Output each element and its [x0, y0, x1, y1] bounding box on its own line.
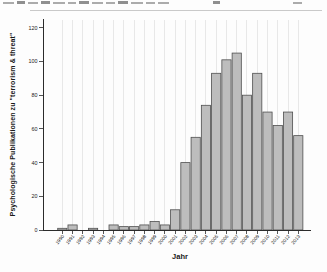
bar-2009 [253, 73, 262, 230]
bar-chart-svg: 0204060801001201990199119921993199419951… [0, 0, 327, 272]
x-tick-label-2006: 2006 [219, 234, 230, 246]
x-tick-label-1992: 1992 [75, 234, 86, 246]
x-tick-label-2013: 2013 [291, 234, 302, 246]
x-tick-label-1993: 1993 [85, 234, 96, 246]
x-tick-label-2005: 2005 [208, 234, 219, 246]
x-tick-label-1994: 1994 [96, 234, 107, 246]
x-tick-label-2007: 2007 [229, 234, 240, 246]
x-tick-label-2010: 2010 [260, 234, 271, 246]
x-tick-label-2009: 2009 [250, 234, 261, 246]
x-tick-label-2002: 2002 [178, 234, 189, 246]
x-tick-label-2003: 2003 [188, 234, 199, 246]
x-tick-label-1997: 1997 [126, 234, 137, 246]
bar-2008 [242, 95, 251, 230]
bar-2007 [232, 53, 241, 230]
x-tick-label-2001: 2001 [167, 234, 178, 246]
bar-2006 [222, 60, 231, 230]
bar-2005 [212, 73, 221, 230]
bar-2002 [181, 163, 190, 230]
x-tick-label-2008: 2008 [239, 234, 250, 246]
x-tick-label-2012: 2012 [280, 234, 291, 246]
x-tick-label-1999: 1999 [147, 234, 158, 246]
bar-2003 [191, 137, 200, 230]
bar-1999 [150, 222, 159, 230]
bar-2012 [283, 112, 292, 230]
bar-1998 [140, 225, 149, 230]
bar-1995 [109, 225, 118, 230]
x-tick-label-1991: 1991 [65, 234, 76, 246]
bar-2004 [201, 105, 210, 230]
x-tick-label-1990: 1990 [55, 234, 66, 246]
y-tick-label: 80 [32, 92, 38, 98]
x-tick-label-2000: 2000 [157, 234, 168, 246]
bar-2011 [273, 126, 282, 230]
y-tick-label: 40 [32, 160, 38, 166]
y-tick-label: 0 [35, 227, 38, 233]
figure-page: Psychologische Publikationen zu "terrori… [0, 0, 327, 272]
x-tick-label-1995: 1995 [106, 234, 117, 246]
bar-2000 [160, 225, 169, 230]
y-tick-label: 20 [32, 193, 38, 199]
x-tick-label-1998: 1998 [137, 234, 148, 246]
bar-1991 [68, 225, 77, 230]
x-tick-label-1996: 1996 [116, 234, 127, 246]
bar-1997 [130, 227, 139, 230]
y-tick-label: 100 [29, 58, 38, 64]
y-tick-label: 120 [29, 25, 38, 31]
x-tick-label-2011: 2011 [270, 234, 281, 245]
bar-2001 [171, 210, 180, 230]
bar-2013 [294, 136, 303, 230]
y-tick-label: 60 [32, 126, 38, 132]
bar-2010 [263, 112, 272, 230]
x-axis-title: Jahr [147, 252, 213, 261]
bar-1996 [119, 227, 128, 230]
x-tick-label-2004: 2004 [198, 234, 209, 246]
